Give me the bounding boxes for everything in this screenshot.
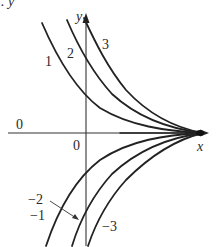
label-pointer-arrow-icon — [72, 214, 79, 220]
curve-c-2 — [67, 20, 203, 133]
origin-label: 0 — [73, 138, 80, 153]
curve-label-3: 3 — [102, 37, 109, 52]
curve-label-2: 2 — [67, 46, 74, 61]
label-pointer-line — [50, 201, 76, 218]
cropped-header-text: ... y — [0, 0, 15, 9]
curve-c-minus-1 — [46, 133, 203, 246]
curve-label-minus-2: −2 — [28, 192, 43, 207]
curve-c-1 — [42, 23, 203, 133]
curve-c-minus-2 — [72, 133, 203, 246]
curve-label-minus-3: −3 — [102, 219, 117, 234]
x-axis-label: x — [196, 139, 204, 154]
curve-label-1: 1 — [45, 54, 52, 69]
y-axis-label: y — [74, 9, 83, 24]
solution-curves-figure: ... y y x 0 1 2 3 0 −2 −1 −3 — [0, 0, 219, 247]
convergence-point — [196, 130, 204, 136]
curve-label-minus-1: −1 — [30, 208, 45, 223]
curve-label-0: 0 — [16, 117, 23, 132]
